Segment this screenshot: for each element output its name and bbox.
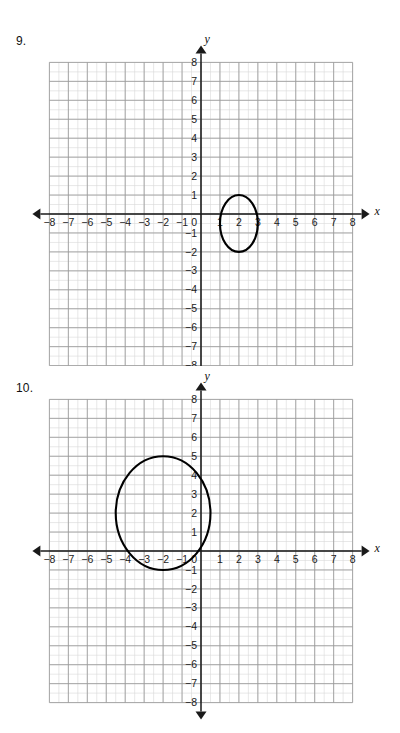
y-tick-label: 6 <box>191 94 197 106</box>
x-axis-label: x <box>374 204 381 218</box>
axes <box>32 382 369 719</box>
x-tick-label: 5 <box>293 553 299 565</box>
problem-10: 10. −8−7−6−5−4−3−2−11234567887654321−1−2… <box>0 370 400 733</box>
y-tick-label: 3 <box>191 151 197 163</box>
y-tick-label: −6 <box>185 658 197 670</box>
y-tick-label: −3 <box>185 264 197 276</box>
y-tick-label: 3 <box>191 488 197 500</box>
y-tick-label: 5 <box>191 450 197 462</box>
y-tick-label: −4 <box>185 620 197 632</box>
y-tick-label: 7 <box>191 412 197 424</box>
x-tick-label: 8 <box>350 216 356 228</box>
x-tick-label: 2 <box>236 216 242 228</box>
y-tick-label: −8 <box>185 696 197 708</box>
y-tick-label: 2 <box>191 170 197 182</box>
x-tick-label: 4 <box>274 216 280 228</box>
x-tick-label: 6 <box>312 216 318 228</box>
axes <box>32 45 369 366</box>
y-tick-label: 8 <box>191 393 197 405</box>
problem-9: 9. −8−7−6−5−4−3−2−11234567887654321−1−2−… <box>0 0 400 370</box>
origin-label: 0 <box>191 216 197 228</box>
x-tick-label: −5 <box>100 553 112 565</box>
y-tick-label: −7 <box>185 677 197 689</box>
coordinate-plane-10: −8−7−6−5−4−3−2−11234567887654321−1−2−3−4… <box>32 374 400 729</box>
x-tick-label: −8 <box>43 553 55 565</box>
y-tick-label: −3 <box>185 601 197 613</box>
x-tick-label: 1 <box>217 553 223 565</box>
x-tick-label: 7 <box>331 216 337 228</box>
y-tick-label: −2 <box>185 583 197 595</box>
y-tick-label: −6 <box>185 321 197 333</box>
y-tick-label: −5 <box>185 639 197 651</box>
y-tick-label: 7 <box>191 75 197 87</box>
problem-10-number: 10. <box>16 381 33 395</box>
y-tick-label: 1 <box>191 526 197 538</box>
x-tick-label: 4 <box>274 553 280 565</box>
x-tick-label: −2 <box>157 216 169 228</box>
x-tick-label: −8 <box>43 216 55 228</box>
x-tick-label: −6 <box>81 553 93 565</box>
x-tick-label: −3 <box>138 216 150 228</box>
x-tick-label: −4 <box>119 216 131 228</box>
y-tick-label: 2 <box>191 507 197 519</box>
x-tick-label: 8 <box>350 553 356 565</box>
y-tick-label: −1 <box>185 564 197 576</box>
y-tick-label: 8 <box>191 56 197 68</box>
x-tick-label: 6 <box>312 553 318 565</box>
coordinate-plane-9: −8−7−6−5−4−3−2−11234567887654321−1−2−3−4… <box>32 26 400 366</box>
x-tick-label: −6 <box>81 216 93 228</box>
problem-9-graph: −8−7−6−5−4−3−2−11234567887654321−1−2−3−4… <box>32 26 400 366</box>
y-tick-label: −5 <box>185 302 197 314</box>
y-tick-label: 1 <box>191 189 197 201</box>
x-tick-label: −7 <box>62 553 74 565</box>
y-tick-label: 4 <box>191 132 197 144</box>
problem-10-graph: −8−7−6−5−4−3−2−11234567887654321−1−2−3−4… <box>32 374 400 729</box>
y-tick-label: −7 <box>185 340 197 352</box>
x-axis-label: x <box>374 541 381 555</box>
y-tick-label: −8 <box>185 359 197 366</box>
x-tick-label: 2 <box>236 553 242 565</box>
x-tick-label: 7 <box>331 553 337 565</box>
tick-labels: −8−7−6−5−4−3−2−11234567887654321−1−2−3−4… <box>43 56 355 366</box>
x-tick-label: −7 <box>62 216 74 228</box>
x-tick-label: −2 <box>157 553 169 565</box>
y-axis-label: y <box>204 32 211 46</box>
y-tick-label: −2 <box>185 246 197 258</box>
y-tick-label: −4 <box>185 283 197 295</box>
y-tick-label: 5 <box>191 113 197 125</box>
x-tick-label: 5 <box>293 216 299 228</box>
y-tick-label: 6 <box>191 431 197 443</box>
y-axis-label: y <box>204 374 211 383</box>
y-tick-label: −1 <box>185 227 197 239</box>
problem-9-number: 9. <box>16 34 26 48</box>
x-tick-label: 3 <box>255 553 261 565</box>
x-tick-label: −5 <box>100 216 112 228</box>
